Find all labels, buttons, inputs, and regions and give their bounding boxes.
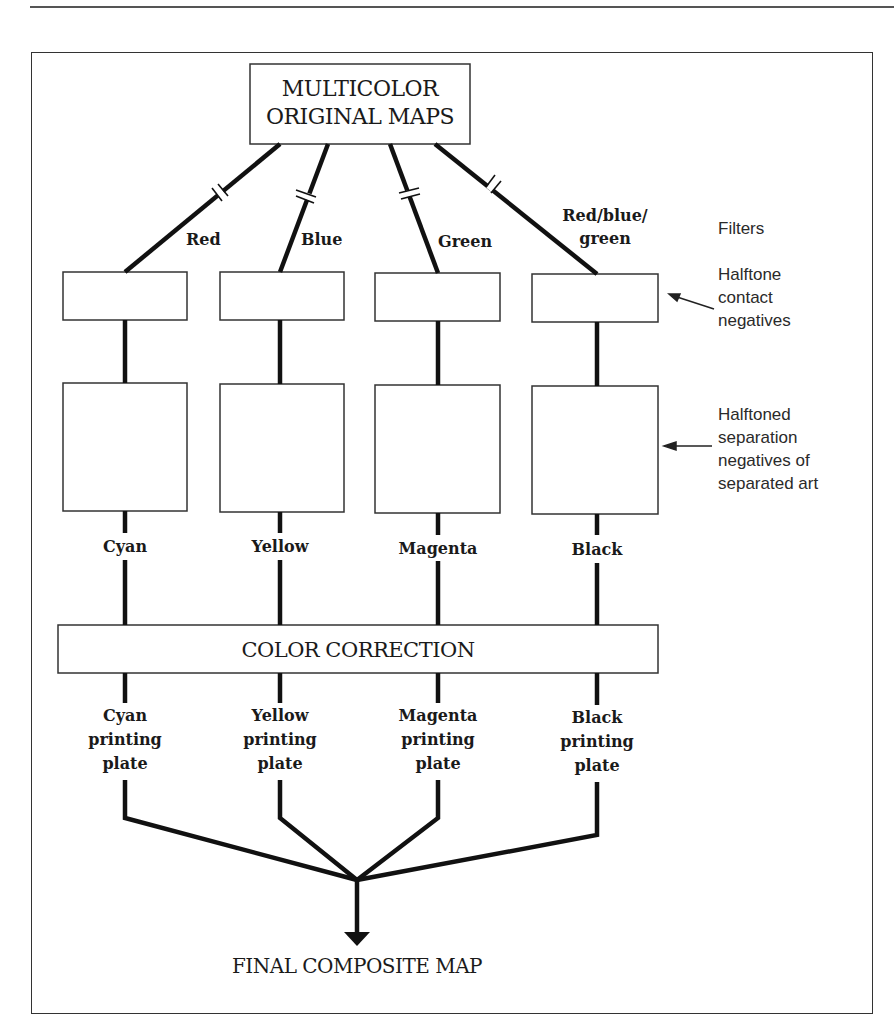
- plate-magenta-line2: printing: [383, 728, 493, 752]
- arrow-to-contact-negatives: [674, 296, 714, 309]
- filter-mark-green-icon: [399, 188, 420, 199]
- filter-line-red: [125, 144, 280, 272]
- top-box-line2: ORIGINAL MAPS: [250, 103, 470, 131]
- filter-label-rgb-line1: Red/blue/: [560, 204, 650, 227]
- top-box-line1: MULTICOLOR: [250, 75, 470, 103]
- separation-label-magenta: Magenta: [388, 537, 488, 561]
- separation-negative-box-magenta: [375, 385, 500, 513]
- annotation-halftone-contact: Halftone contact negatives: [718, 263, 791, 332]
- plate-cyan-line2: printing: [75, 728, 175, 752]
- contact-negative-box-yellow: [220, 272, 344, 320]
- plate-yellow-line2: printing: [230, 728, 330, 752]
- plate-magenta-line1: Magenta: [383, 704, 493, 728]
- filter-line-blue: [280, 144, 328, 272]
- plate-cyan-line1: Cyan: [75, 704, 175, 728]
- annotation-separation-line2: separation: [718, 426, 818, 449]
- separation-negative-box-black: [532, 386, 658, 514]
- merge-line-black: [357, 782, 597, 880]
- plate-black-line1: Black: [547, 706, 647, 730]
- plate-label-magenta: Magenta printing plate: [383, 704, 493, 776]
- filter-label-green: Green: [438, 230, 492, 254]
- separation-label-cyan: Cyan: [85, 535, 165, 559]
- contact-negative-box-magenta: [375, 273, 500, 321]
- plate-yellow-line3: plate: [230, 752, 330, 776]
- arrow-head-contact-icon: [669, 294, 680, 301]
- separation-negative-box-yellow: [220, 384, 344, 512]
- arrow-head-separation-icon: [664, 442, 676, 450]
- filter-line-green: [390, 144, 438, 273]
- separation-negative-box-cyan: [63, 383, 187, 511]
- annotation-halftoned-separation: Halftoned separation negatives of separa…: [718, 403, 818, 495]
- final-composite-map-label: FINAL COMPOSITE MAP: [207, 954, 507, 978]
- annotation-separation-line3: negatives of: [718, 449, 818, 472]
- color-correction-label: COLOR CORRECTION: [58, 636, 658, 664]
- separation-label-yellow: Yellow: [240, 535, 320, 559]
- plate-cyan-line3: plate: [75, 752, 175, 776]
- plate-magenta-line3: plate: [383, 752, 493, 776]
- contact-negative-box-cyan: [63, 272, 187, 320]
- annotation-separation-line1: Halftoned: [718, 403, 818, 426]
- annotation-filters: Filters: [718, 217, 764, 240]
- top-box-label: MULTICOLOR ORIGINAL MAPS: [250, 75, 470, 131]
- plate-label-cyan: Cyan printing plate: [75, 704, 175, 776]
- plate-yellow-line1: Yellow: [230, 704, 330, 728]
- annotation-halftone-contact-line3: negatives: [718, 309, 791, 332]
- plate-black-line3: plate: [547, 754, 647, 778]
- filter-label-rgb: Red/blue/ green: [560, 204, 650, 250]
- plate-label-black: Black printing plate: [547, 706, 647, 778]
- flow-diagram: [0, 0, 894, 1024]
- plate-label-yellow: Yellow printing plate: [230, 704, 330, 776]
- filter-label-rgb-line2: green: [560, 227, 650, 250]
- filter-label-blue: Blue: [301, 228, 342, 252]
- annotation-separation-line4: separated art: [718, 472, 818, 495]
- annotation-halftone-contact-line1: Halftone: [718, 263, 791, 286]
- filter-mark-rgb-icon: [486, 175, 501, 193]
- down-arrow-icon: [344, 932, 370, 946]
- annotation-halftone-contact-line2: contact: [718, 286, 791, 309]
- filter-label-red: Red: [186, 228, 221, 252]
- separation-label-black: Black: [557, 538, 637, 562]
- merge-line-cyan: [125, 780, 357, 880]
- merge-line-yellow: [280, 780, 357, 880]
- contact-negative-box-black: [532, 274, 658, 322]
- plate-black-line2: printing: [547, 730, 647, 754]
